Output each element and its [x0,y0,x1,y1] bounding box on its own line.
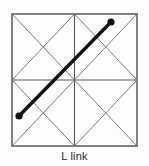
lattice-figure: L link [0,0,149,166]
l-link-endpoint-end [107,18,114,25]
figure-caption: L link [0,149,149,163]
l-link-endpoint-start [15,112,22,119]
lattice-diagram [0,0,149,149]
